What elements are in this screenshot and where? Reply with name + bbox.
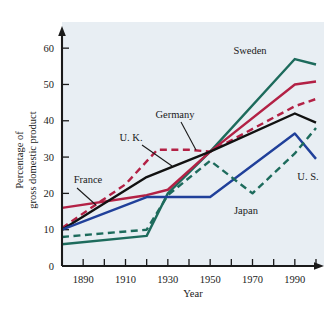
x-tick-label-1930: 1930 (157, 274, 178, 285)
y-tick-label-60: 60 (44, 43, 55, 54)
x-tick-label-1890: 1890 (73, 274, 94, 285)
y-tick-label-0: 0 (49, 261, 54, 272)
y-tick-label-30: 30 (44, 152, 55, 163)
series-label-japan: Japan (234, 205, 259, 216)
x-tick-label-1910: 1910 (115, 274, 136, 285)
y-tick-label-40: 40 (44, 115, 55, 126)
y-tick-label-20: 20 (44, 188, 55, 199)
chart-container: 0102030405060 189019101930195019701990 S… (0, 0, 336, 313)
series-label-u-k: U. K. (119, 132, 142, 143)
y-tick-label-10: 10 (44, 224, 55, 235)
series-label-germany: Germany (155, 109, 195, 120)
gdp-percentage-line-chart: 0102030405060 189019101930195019701990 S… (0, 0, 336, 313)
series-label-france: France (74, 174, 103, 185)
series-label-sweden: Sweden (233, 45, 267, 56)
y-tick-label-50: 50 (44, 79, 55, 90)
x-tick-label-1950: 1950 (200, 274, 221, 285)
y-axis-title-line1: Percentage of (14, 131, 25, 189)
x-tick-label-1970: 1970 (242, 274, 263, 285)
x-axis-title: Year (183, 288, 203, 299)
x-tick-label-1990: 1990 (284, 274, 305, 285)
y-axis-title-line2: gross domestic product (27, 111, 38, 208)
series-label-u-s: U. S. (297, 171, 318, 182)
